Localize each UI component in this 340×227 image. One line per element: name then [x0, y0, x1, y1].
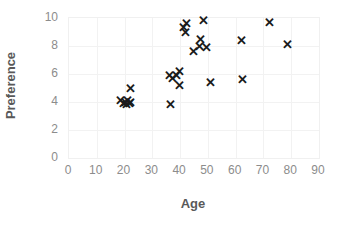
x-tick-label: 70 [247, 163, 277, 177]
data-point-marker: ✕ [180, 17, 193, 30]
y-tick-label: 2 [36, 122, 58, 136]
data-point-marker: ✕ [204, 76, 217, 89]
x-tick-label: 10 [81, 163, 111, 177]
y-tick-label: 4 [36, 94, 58, 108]
data-point-marker: ✕ [164, 98, 177, 111]
data-point-marker: ✕ [263, 16, 276, 29]
data-point-marker: ✕ [200, 41, 213, 54]
y-axis-title: Preference [0, 0, 22, 170]
scatter-chart: Preference ✕✕✕✕✕✕✕✕✕✕✕✕✕✕✕✕✕✕✕✕✕✕✕✕✕✕✕ 0… [0, 0, 340, 227]
data-point-marker: ✕ [124, 96, 137, 109]
gridline-vertical [263, 18, 264, 158]
x-axis-title: Age [68, 196, 318, 211]
plot-area: ✕✕✕✕✕✕✕✕✕✕✕✕✕✕✕✕✕✕✕✕✕✕✕✕✕✕✕ [68, 17, 320, 159]
gridline-horizontal [69, 74, 319, 75]
data-point-marker: ✕ [236, 73, 249, 86]
gridline-vertical [152, 18, 153, 158]
data-point-marker: ✕ [197, 14, 210, 27]
x-tick-label: 0 [53, 163, 83, 177]
y-tick-label: 0 [36, 150, 58, 164]
x-tick-label: 90 [303, 163, 333, 177]
x-tick-label: 50 [192, 163, 222, 177]
data-point-marker: ✕ [173, 79, 186, 92]
data-point-marker: ✕ [124, 82, 137, 95]
data-point-marker: ✕ [173, 65, 186, 78]
x-tick-label: 80 [275, 163, 305, 177]
x-tick-label: 60 [220, 163, 250, 177]
y-tick-label: 8 [36, 38, 58, 52]
gridline-vertical [97, 18, 98, 158]
y-axis-title-text: Preference [4, 51, 19, 118]
y-tick-label: 10 [36, 10, 58, 24]
x-tick-label: 20 [109, 163, 139, 177]
x-tick-label: 30 [136, 163, 166, 177]
x-tick-label: 40 [164, 163, 194, 177]
data-point-marker: ✕ [235, 34, 248, 47]
y-tick-label: 6 [36, 66, 58, 80]
gridline-horizontal [69, 130, 319, 131]
data-point-marker: ✕ [281, 38, 294, 51]
gridline-horizontal [69, 102, 319, 103]
